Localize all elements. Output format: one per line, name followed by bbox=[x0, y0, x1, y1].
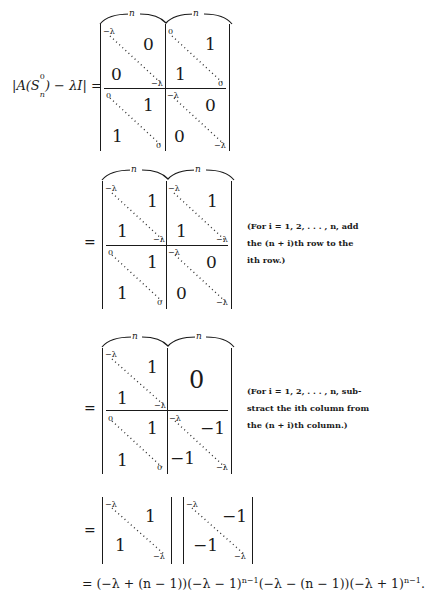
result-part: (−λ − (n − 1))(−λ + 1) bbox=[259, 576, 404, 591]
determinant-bar-right bbox=[252, 497, 253, 564]
final-result: = (−λ + (n − 1))(−λ − 1)n−1(−λ − (n − 1)… bbox=[82, 576, 425, 591]
entry: −λ bbox=[105, 501, 117, 509]
entry: −λ bbox=[186, 501, 198, 509]
entry: 1 bbox=[145, 508, 156, 525]
result-exponent: n−1 bbox=[404, 576, 421, 585]
equals-sign: = bbox=[84, 522, 96, 538]
determinant-bar-left bbox=[183, 497, 184, 564]
determinant-bar-right bbox=[171, 497, 172, 564]
entry: −1 bbox=[193, 537, 218, 554]
entry: −1 bbox=[222, 508, 247, 525]
result-part: = (−λ + (n − 1))(−λ − 1) bbox=[82, 576, 242, 591]
result-exponent: n−1 bbox=[242, 576, 259, 585]
determinant-product: = −λ 1 1 −λ −λ −1 −1 −λ bbox=[0, 0, 389, 570]
result-part: . bbox=[421, 576, 425, 591]
entry: −λ bbox=[153, 553, 165, 561]
determinant-bar-left bbox=[102, 497, 103, 564]
entry: −λ bbox=[234, 553, 246, 561]
entry: 1 bbox=[115, 537, 126, 554]
